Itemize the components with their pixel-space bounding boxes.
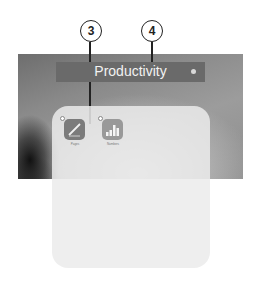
callout-4-leader-line bbox=[151, 42, 153, 64]
pages-pen-icon bbox=[64, 119, 85, 140]
callout-4: 4 bbox=[141, 20, 163, 42]
clear-text-icon[interactable] bbox=[191, 69, 196, 74]
app-label-numbers: Numbers bbox=[98, 142, 128, 146]
numbers-bar-chart-icon bbox=[102, 119, 123, 140]
folder-title-field[interactable]: Productivity bbox=[56, 62, 205, 82]
callout-4-number: 4 bbox=[149, 24, 156, 38]
folder-title: Productivity bbox=[56, 63, 205, 79]
app-numbers[interactable] bbox=[102, 119, 123, 140]
callout-3: 3 bbox=[80, 20, 102, 42]
app-label-pages: Pages bbox=[60, 142, 90, 146]
callout-3-number: 3 bbox=[88, 24, 95, 38]
folder-panel: Pages Numbers bbox=[52, 106, 210, 268]
app-pages[interactable] bbox=[64, 119, 85, 140]
